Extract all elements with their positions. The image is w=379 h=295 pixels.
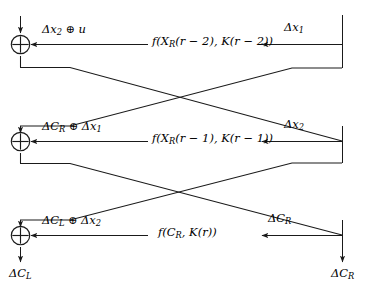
label-top-left-arrow: Δx2 ⊕ u xyxy=(42,24,86,36)
feistel-differential-diagram: Δx2 ⊕ u f(XR(r − 2), K(r − 2)) Δx1 ΔCR ⊕… xyxy=(0,0,379,295)
label-output-left: ΔCL xyxy=(9,268,32,280)
label-mid-left-arrow: ΔCR ⊕ Δx1 xyxy=(42,121,102,133)
label-output-right: ΔCR xyxy=(331,268,354,280)
label-top-function: f(XR(r − 2), K(r − 2)) xyxy=(152,36,273,48)
label-top-left-delta: Δx2 ⊕ u xyxy=(42,22,86,36)
label-bot-left-arrow: ΔCL ⊕ Δx2 xyxy=(42,215,101,227)
label-mid-right-delta: Δx2 xyxy=(284,117,304,131)
label-mid-function-text: f(XR(r − 1), K(r − 1)) xyxy=(152,131,273,145)
label-bot-right-delta: ΔCR xyxy=(268,211,291,225)
label-output-left-text: ΔCL xyxy=(9,266,32,280)
label-output-right-text: ΔCR xyxy=(331,266,354,280)
xor-node-middle xyxy=(11,132,29,150)
label-mid-function: f(XR(r − 1), K(r − 1)) xyxy=(152,133,273,145)
xor-node-top xyxy=(11,35,29,53)
xor-node-bottom xyxy=(11,226,29,244)
label-bot-right-arrow: ΔCR xyxy=(268,213,291,225)
label-bot-function: f(CR, K(r)) xyxy=(158,227,217,239)
label-top-right-delta: Δx1 xyxy=(284,20,304,34)
label-mid-right-arrow: Δx2 xyxy=(284,119,304,131)
label-mid-left-delta: ΔCR ⊕ Δx1 xyxy=(42,119,102,133)
label-bot-function-text: f(CR, K(r)) xyxy=(158,225,217,239)
label-top-right-arrow: Δx1 xyxy=(284,22,304,34)
label-top-function-text: f(XR(r − 2), K(r − 2)) xyxy=(152,34,273,48)
label-bot-left-delta: ΔCL ⊕ Δx2 xyxy=(42,213,101,227)
